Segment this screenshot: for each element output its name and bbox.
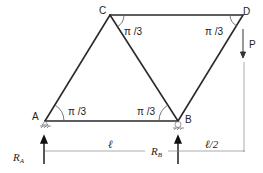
reaction-label-RB-sub: B xyxy=(158,151,162,159)
reaction-label-RA-sub: A xyxy=(20,157,24,165)
node-label-A: A xyxy=(32,112,39,122)
roller-support-B xyxy=(173,122,184,131)
angle-arc-C xyxy=(117,15,124,27)
angle-label-C: π /3 xyxy=(124,27,142,37)
reaction-label-RA: RA xyxy=(13,152,24,165)
load-label-P: P xyxy=(249,40,256,50)
node-label-D: D xyxy=(243,7,250,17)
truss-diagram: C D A B π /3 π /3 π /3 π /3 P ℓ ℓ/2 RA R… xyxy=(0,0,263,173)
node-label-C: C xyxy=(99,6,106,16)
angle-arc-B xyxy=(159,105,168,121)
reaction-label-RB: RB xyxy=(151,146,162,159)
dimension-label-BD: ℓ/2 xyxy=(205,139,218,150)
angle-arc-D xyxy=(230,15,237,26)
angle-label-B: π /3 xyxy=(137,107,155,117)
reaction-arrow-RA xyxy=(41,136,47,164)
angle-arc-A xyxy=(55,105,64,121)
load-arrow-P xyxy=(241,29,246,58)
pin-support-A xyxy=(40,121,51,128)
reaction-label-RA-main: R xyxy=(13,151,20,163)
angle-label-A: π /3 xyxy=(68,107,86,117)
node-label-B: B xyxy=(185,115,192,125)
dimension-label-AB: ℓ xyxy=(108,139,113,150)
reaction-arrow-RB xyxy=(175,136,181,164)
angle-label-D: π /3 xyxy=(205,27,223,37)
reaction-label-RB-main: R xyxy=(151,145,158,157)
